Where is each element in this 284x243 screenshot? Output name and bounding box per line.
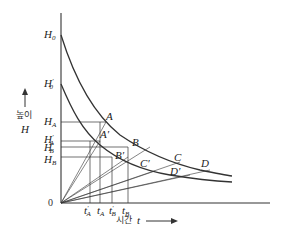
up-arrow-icon [22,88,28,95]
point-A: A [106,111,113,122]
upper-curve [61,35,232,176]
label-tB-prime: t′B [109,205,116,218]
y-axis-label-korean: 높이 [16,111,32,120]
label-HB: HB [44,154,56,167]
ray-D-prime [61,175,190,203]
label-tA-prime: t′A [84,205,91,218]
label-HA: HA [44,116,56,129]
label-H0-prime: H′0 [44,78,53,91]
point-D-prime: D′ [170,166,180,177]
point-B: B [132,137,139,148]
label-tB: tB [122,205,129,218]
ray-B [61,147,150,203]
point-C: C [174,152,181,163]
ray-A-prime [61,141,100,203]
right-arrow-icon [171,218,178,224]
y-axis-label-var: H [21,124,29,135]
point-B-prime: B′ [115,150,124,161]
point-C-prime: C′ [140,158,150,169]
decay-diagram [0,0,284,243]
ray-C-prime [61,171,155,203]
point-A-prime: A′ [100,129,109,140]
point-D: D [201,158,209,169]
ray-B-prime [61,157,128,203]
x-axis-label-var: t [137,215,140,226]
origin-label: 0 [48,197,53,208]
label-tA: tA [97,205,104,218]
label-H0: H0 [44,29,55,42]
